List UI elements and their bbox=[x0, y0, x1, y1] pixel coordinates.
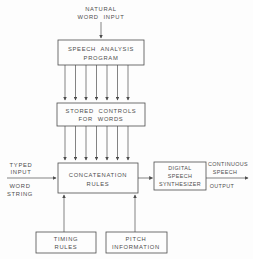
digital-speech-synthesizer-box: DIGITAL SPEECH SYNTHESIZER bbox=[154, 162, 206, 190]
concatenation-line2: RULES bbox=[87, 181, 110, 187]
speech-analysis-program-box: SPEECH ANALYSIS PROGRAM bbox=[58, 40, 144, 65]
natural-input-line1: NATURAL bbox=[85, 6, 117, 12]
stored-controls-line1: STORED CONTROLS bbox=[66, 108, 137, 114]
speech-analysis-rect bbox=[58, 40, 144, 65]
continuous-speech-output-label: CONTINUOUS SPEECH OUTPUT bbox=[208, 161, 248, 189]
synthesizer-line2: SPEECH bbox=[168, 173, 193, 179]
typed-input-line2: INPUT bbox=[11, 169, 32, 175]
speech-analysis-line2: PROGRAM bbox=[84, 55, 119, 61]
speech-analysis-line1: SPEECH ANALYSIS bbox=[68, 46, 134, 52]
arrow-bundle-stored-to-concatenation bbox=[65, 126, 128, 160]
concatenation-rules-box: CONCATENATION RULES bbox=[58, 163, 138, 193]
continuous-output-line1: CONTINUOUS bbox=[208, 161, 248, 167]
stored-controls-box: STORED CONTROLS FOR WORDS bbox=[57, 103, 145, 126]
timing-rules-line2: RULES bbox=[55, 244, 78, 250]
continuous-output-line2: SPEECH bbox=[213, 169, 238, 175]
continuous-output-line3: OUTPUT bbox=[210, 183, 235, 189]
pitch-information-line1: PITCH bbox=[126, 236, 147, 242]
timing-rules-box: TIMING RULES bbox=[36, 232, 96, 253]
natural-word-input-label: NATURAL WORD INPUT bbox=[78, 6, 125, 20]
synthesizer-line3: SYNTHESIZER bbox=[159, 181, 201, 187]
timing-rules-line1: TIMING bbox=[54, 236, 79, 242]
speech-synthesis-block-diagram: NATURAL WORD INPUT SPEECH ANALYSIS PROGR… bbox=[0, 0, 253, 259]
concatenation-line1: CONCATENATION bbox=[69, 172, 127, 178]
arrow-bundle-analysis-to-stored bbox=[65, 65, 128, 100]
pitch-information-box: PITCH INFORMATION bbox=[106, 232, 167, 253]
synthesizer-line1: DIGITAL bbox=[168, 165, 191, 171]
typed-input-line3: WORD bbox=[9, 183, 30, 189]
typed-input-line1: TYPED bbox=[10, 162, 33, 168]
typed-input-line4: STRING bbox=[7, 191, 33, 197]
natural-input-line2: WORD INPUT bbox=[78, 14, 125, 20]
stored-controls-line2: FOR WORDS bbox=[79, 116, 124, 122]
stored-controls-rect bbox=[57, 103, 145, 126]
typed-input-label: TYPED INPUT WORD STRING bbox=[7, 162, 33, 197]
pitch-information-line2: INFORMATION bbox=[112, 244, 160, 250]
concatenation-rect bbox=[58, 163, 138, 193]
diagram-canvas: NATURAL WORD INPUT SPEECH ANALYSIS PROGR… bbox=[0, 0, 253, 259]
